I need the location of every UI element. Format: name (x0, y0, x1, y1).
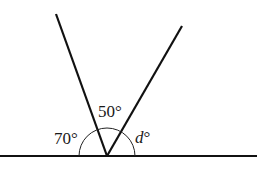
label-left-angle: 70° (54, 129, 78, 148)
angle-diagram: 70° 50° d° (0, 0, 265, 170)
label-middle-angle: 50° (98, 102, 122, 121)
label-right-angle: d° (135, 128, 150, 147)
label-right-angle-degree: ° (144, 128, 151, 147)
angle-arc (79, 128, 135, 156)
